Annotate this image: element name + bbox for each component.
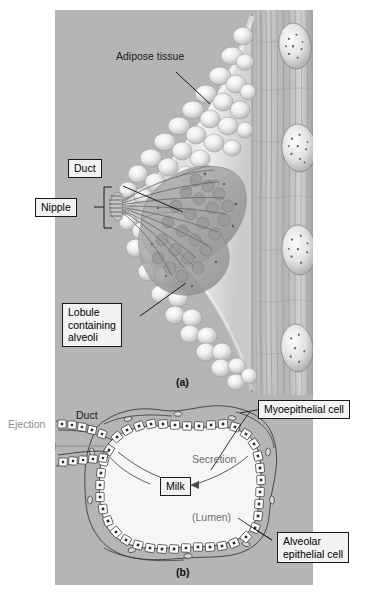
breast-sagittal-illustration: [109, 10, 318, 395]
label-secretion: Secretion: [192, 453, 236, 465]
nipple-bracket: [94, 187, 112, 228]
label-duct-b: Duct: [76, 409, 98, 421]
label-milk: Milk: [160, 477, 191, 496]
figure-caption: [34, 592, 334, 605]
ejection-arrow: [48, 443, 104, 450]
label-ejection: Ejection: [8, 418, 45, 430]
label-duct-a: Duct: [68, 159, 102, 178]
label-myoepithelial-cell: Myoepithelial cell: [258, 400, 350, 419]
nipple-structure: [109, 192, 122, 221]
artwork-layer: [0, 0, 366, 605]
subfigure-label-a: (a): [176, 376, 189, 388]
figure-mammary-gland: Adipose tissue Duct Nipple Lobule contai…: [0, 0, 366, 605]
figure-artwork: [0, 0, 366, 605]
subfigure-label-b: (b): [176, 566, 189, 578]
label-nipple: Nipple: [35, 198, 77, 217]
label-lumen: (Lumen): [192, 511, 231, 523]
duct-outlet: [56, 420, 112, 466]
label-lobule-containing-alveoli: Lobule containing alveoli: [62, 303, 122, 347]
label-alveolar-epithelial-cell: Alveolar epithelial cell: [277, 532, 349, 563]
label-adipose-tissue: Adipose tissue: [116, 50, 184, 62]
